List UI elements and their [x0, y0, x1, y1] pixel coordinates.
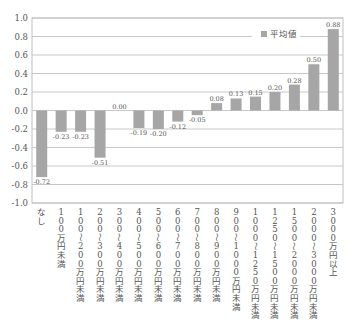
x-category-char: 満: [309, 310, 318, 320]
x-category-label: 1500〜2000万円未満: [289, 207, 299, 320]
bar-value-label: 0.88: [326, 21, 340, 29]
x-category-label: 400〜500万円未満: [134, 207, 144, 303]
bar-value-label: 0.00: [112, 103, 126, 111]
x-category-char: 満: [96, 293, 105, 303]
y-tick-label: -0.4: [12, 143, 28, 153]
x-category-label: 100万円未満: [57, 207, 66, 269]
bar-value-label: 0.08: [209, 95, 223, 103]
x-category-char: 満: [76, 293, 85, 303]
x-category-label: 3000万円以上: [329, 207, 338, 277]
bar: [172, 111, 183, 122]
x-category-label: 900〜1000万円未満: [231, 207, 241, 312]
x-category-char: 満: [154, 293, 163, 303]
bar-value-label: 0.20: [268, 84, 282, 92]
x-category-label: 200〜300万円未満: [95, 207, 105, 303]
bar-value-label: -0.12: [169, 123, 186, 131]
bar: [56, 111, 67, 132]
x-category-label: 2000〜3000万円未満: [309, 207, 319, 320]
y-tick-label: 0.4: [14, 69, 28, 79]
bar: [211, 103, 222, 110]
x-category-char: し: [37, 216, 46, 226]
bar: [308, 64, 319, 110]
x-category-label: 800〜900万円未満: [212, 207, 222, 303]
legend-swatch: [261, 31, 267, 37]
bars: -0.72-0.23-0.23-0.510.00-0.19-0.20-0.12-…: [33, 21, 340, 186]
y-tick-label: -0.2: [12, 124, 28, 134]
y-tick-label: 0.6: [14, 50, 28, 60]
bar-value-label: 0.50: [307, 56, 321, 64]
bar: [75, 111, 86, 132]
x-category-char: 上: [329, 267, 338, 277]
x-category-label: 300〜400万円未満: [114, 207, 124, 303]
x-category-label: 700〜800万円未満: [192, 207, 202, 303]
bar-value-label: -0.05: [189, 116, 206, 124]
y-tick-label: 0.0: [14, 106, 28, 116]
y-tick-label: 0.2: [14, 87, 28, 97]
x-axis-labels: なし100万円未満100〜200万円未満200〜300万円未満300〜400万円…: [37, 207, 338, 320]
bar-value-label: 0.28: [287, 77, 301, 85]
bar-value-label: -0.23: [72, 133, 89, 141]
y-tick-label: -1.0: [12, 198, 28, 208]
bar-value-label: -0.72: [33, 178, 50, 186]
bar: [250, 97, 261, 111]
x-category-label: 100〜200万円未満: [76, 207, 86, 303]
bar-value-label: -0.19: [131, 129, 148, 137]
x-category-label: 1000〜1250万円未満: [251, 207, 261, 320]
x-category-char: 満: [232, 302, 241, 312]
x-category-char: 満: [212, 293, 221, 303]
bar-chart: 1.00.80.60.40.20.0-0.2-0.4-0.6-0.8-1.0 -…: [0, 0, 357, 333]
bar: [192, 111, 203, 116]
y-tick-label: -0.6: [12, 161, 28, 171]
bar-value-label: 0.15: [248, 89, 262, 97]
legend-label: 平均値: [270, 29, 297, 39]
y-tick-label: -0.8: [12, 180, 28, 190]
bar: [95, 111, 106, 158]
bar-value-label: -0.23: [53, 133, 70, 141]
bar-value-label: -0.20: [150, 130, 167, 138]
x-category-label: 600〜700万円未満: [173, 207, 183, 303]
bar: [289, 85, 300, 111]
bar: [328, 29, 339, 110]
x-category-char: 満: [57, 259, 66, 269]
bar: [231, 98, 242, 110]
x-category-char: 満: [134, 293, 143, 303]
x-category-label: なし: [37, 207, 46, 226]
x-category-label: 500〜600万円未満: [153, 207, 163, 303]
y-axis: 1.00.80.60.40.20.0-0.2-0.4-0.6-0.8-1.0: [12, 13, 28, 208]
x-category-label: 1250〜1500万円未満: [270, 207, 280, 320]
bar-value-label: -0.51: [92, 159, 109, 167]
x-category-char: 満: [290, 310, 299, 320]
bar-value-label: 0.13: [229, 90, 243, 98]
x-category-char: 満: [270, 310, 279, 320]
bar: [36, 111, 47, 178]
x-category-char: 満: [251, 310, 260, 320]
x-category-char: 満: [193, 293, 202, 303]
y-tick-label: 0.8: [14, 32, 28, 42]
x-category-char: 満: [173, 293, 182, 303]
bar: [133, 111, 144, 129]
bar: [153, 111, 164, 130]
y-tick-label: 1.0: [14, 13, 28, 23]
legend: 平均値: [252, 27, 300, 40]
bar: [269, 92, 280, 111]
x-category-char: 満: [115, 293, 124, 303]
